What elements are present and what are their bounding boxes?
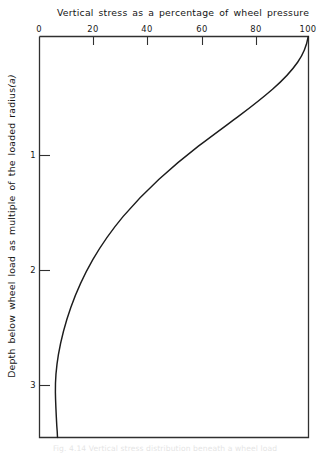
axis-frame <box>40 37 309 438</box>
figure-caption: Fig. 4.14 Vertical stress distribution b… <box>0 444 330 453</box>
x-tick-label-80: 80 <box>250 24 261 34</box>
x-axis-ticks <box>94 37 257 45</box>
x-tick-label-0: 0 <box>36 24 42 34</box>
x-tick-label-40: 40 <box>141 24 152 34</box>
x-tick-label-100: 100 <box>300 24 317 34</box>
y-tick-label-3: 3 <box>22 380 36 390</box>
y-tick-label-2: 2 <box>22 265 36 275</box>
x-tick-label-60: 60 <box>196 24 207 34</box>
data-curve <box>55 37 308 438</box>
y-axis-ticks <box>40 156 50 386</box>
y-tick-label-1: 1 <box>22 150 36 160</box>
x-tick-label-20: 20 <box>87 24 98 34</box>
